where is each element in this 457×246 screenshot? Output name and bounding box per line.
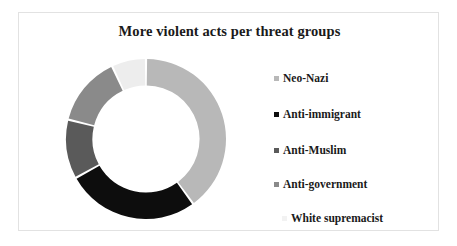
chart-title: More violent acts per threat groups [19,23,440,40]
pie-slice[interactable] [66,121,99,177]
legend-item-label: White supremacist [291,212,383,224]
chart-legend: Neo-NaziAnti-immigrantAnti-MuslimAnti-go… [274,57,440,222]
doughnut-chart-svg [63,56,229,222]
doughnut-chart [63,56,229,222]
legend-item-label: Anti-Muslim [283,144,346,156]
legend-swatch-icon [282,216,287,221]
pie-slice[interactable] [77,166,193,219]
legend-item-label: Anti-immigrant [283,108,361,120]
legend-item-label: Neo-Nazi [283,72,328,84]
chart-frame: More violent acts per threat groups Neo-… [18,12,439,231]
pie-slice[interactable] [69,67,123,125]
pie-slice[interactable] [147,59,226,203]
legend-item[interactable]: White supremacist [282,211,383,225]
legend-swatch-icon [274,112,279,117]
legend-item[interactable]: Anti-government [274,177,367,191]
legend-item-label: Anti-government [283,178,367,190]
legend-item[interactable]: Anti-immigrant [274,107,361,121]
legend-item[interactable]: Anti-Muslim [274,143,346,157]
legend-item[interactable]: Neo-Nazi [274,71,328,85]
legend-swatch-icon [274,182,279,187]
legend-swatch-icon [274,148,279,153]
legend-swatch-icon [274,76,279,81]
